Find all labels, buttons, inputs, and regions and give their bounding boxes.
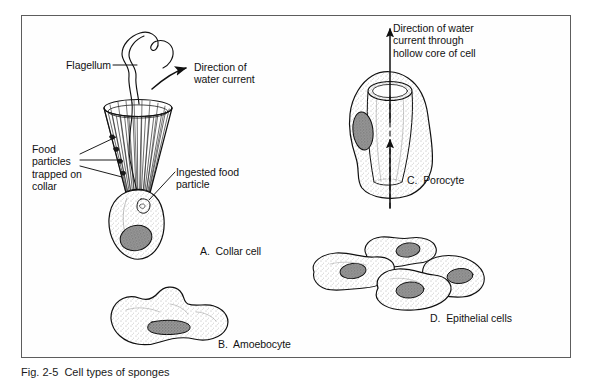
label-ingested-food-particle: Ingested food particle xyxy=(176,166,239,191)
label-b-amoebocyte: B. Amoebocyte xyxy=(218,338,291,350)
label-a-collar-cell: A. Collar cell xyxy=(200,245,261,257)
label-d-epithelial-cells: D. Epithelial cells xyxy=(430,312,512,324)
figure-root: Flagellum Direction of water current Foo… xyxy=(0,0,595,381)
figure-caption: Fig. 2-5 Cell types of sponges xyxy=(21,366,170,378)
label-flagellum: Flagellum xyxy=(66,59,111,71)
label-direction-of-water-current: Direction of water current xyxy=(194,61,255,86)
label-c-porocyte: C. Porocyte xyxy=(407,174,464,186)
label-food-particles-trapped-on-collar: Food particles trapped on collar xyxy=(32,143,82,193)
label-direction-of-water-current-through-hollow-core: Direction of water current through hollo… xyxy=(393,22,476,59)
